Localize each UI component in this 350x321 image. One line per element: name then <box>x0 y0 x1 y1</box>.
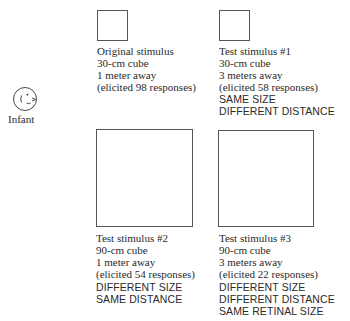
stimulus-title: Test stimulus #2 <box>96 232 195 244</box>
stimulus-size: 30-cm cube <box>219 57 335 69</box>
stimulus-size: 90-cm cube <box>219 244 335 256</box>
test-stimulus-3-cube <box>218 130 314 227</box>
stimulus-distance: 3 meters away <box>219 69 335 81</box>
test-stimulus-1-description: Test stimulus #1 30-cm cube 3 meters awa… <box>219 45 335 117</box>
stimulus-title: Test stimulus #1 <box>219 45 335 57</box>
stimulus-note: DIFFERENT DISTANCE <box>219 293 335 305</box>
stimulus-size: 30-cm cube <box>97 57 196 69</box>
test-stimulus-1-cube <box>219 10 250 41</box>
stimulus-responses: (elicited 22 responses) <box>219 268 335 280</box>
test-stimulus-3-description: Test stimulus #3 90-cm cube 3 meters awa… <box>219 232 335 317</box>
stimulus-note: DIFFERENT SIZE <box>96 281 195 293</box>
test-stimulus-2-description: Test stimulus #2 90-cm cube 1 meter away… <box>96 232 195 305</box>
stimulus-responses: (elicited 98 responses) <box>97 81 196 93</box>
infant-label: Infant <box>8 113 34 125</box>
original-stimulus-cube <box>97 10 128 41</box>
stimulus-title: Original stimulus <box>97 45 196 57</box>
stimulus-responses: (elicited 54 responses) <box>96 268 195 280</box>
original-stimulus-description: Original stimulus 30-cm cube 1 meter awa… <box>97 45 196 93</box>
stimulus-distance: 1 meter away <box>96 256 195 268</box>
stimulus-responses: (elicited 58 responses) <box>219 81 335 93</box>
test-stimulus-2-cube <box>96 129 193 227</box>
stimulus-title: Test stimulus #3 <box>219 232 335 244</box>
stimulus-note: SAME DISTANCE <box>96 293 195 305</box>
stimulus-note: DIFFERENT SIZE <box>219 281 335 293</box>
stimulus-note: DIFFERENT DISTANCE <box>219 105 335 117</box>
stimulus-note: SAME SIZE <box>219 93 335 105</box>
stimulus-size: 90-cm cube <box>96 244 195 256</box>
stimulus-distance: 3 meters away <box>219 256 335 268</box>
stimulus-note: SAME RETINAL SIZE <box>219 305 335 317</box>
infant-face-icon <box>12 86 38 112</box>
stimulus-distance: 1 meter away <box>97 69 196 81</box>
